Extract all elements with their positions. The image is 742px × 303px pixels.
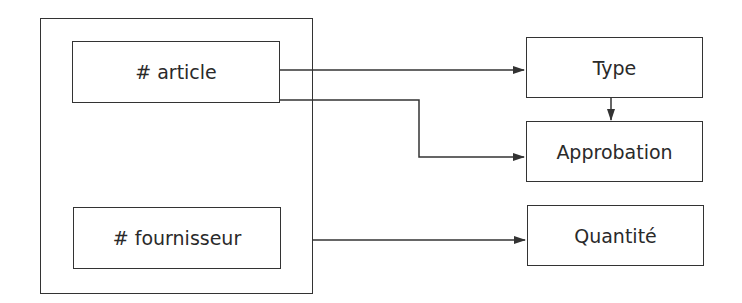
arrow-article-to-approbation — [280, 100, 524, 157]
connector-layer — [0, 0, 742, 303]
